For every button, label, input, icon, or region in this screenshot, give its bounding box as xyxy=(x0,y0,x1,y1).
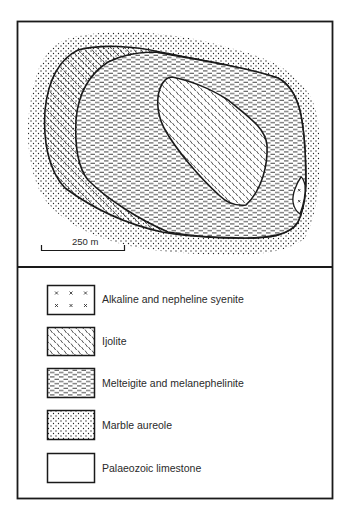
map-panel xyxy=(28,32,320,255)
legend-label-melteigite: Melteigite and melanephelinite xyxy=(102,377,244,389)
legend-swatch-limestone xyxy=(48,454,95,483)
legend-swatch-ijolite xyxy=(48,328,95,356)
scale-bar-label: 250 m xyxy=(72,236,98,247)
legend-label-ijolite: Ijolite xyxy=(102,335,127,347)
legend-panel xyxy=(48,286,95,483)
legend-swatch-marble xyxy=(48,411,95,440)
legend-swatch-syenite xyxy=(48,286,95,315)
legend-swatch-melteigite xyxy=(48,369,95,398)
geological-map-figure xyxy=(0,0,345,505)
legend-label-marble: Marble aureole xyxy=(102,419,172,431)
legend-label-limestone: Palaeozoic limestone xyxy=(102,462,201,474)
legend-label-syenite: Alkaline and nepheline syenite xyxy=(102,293,244,305)
